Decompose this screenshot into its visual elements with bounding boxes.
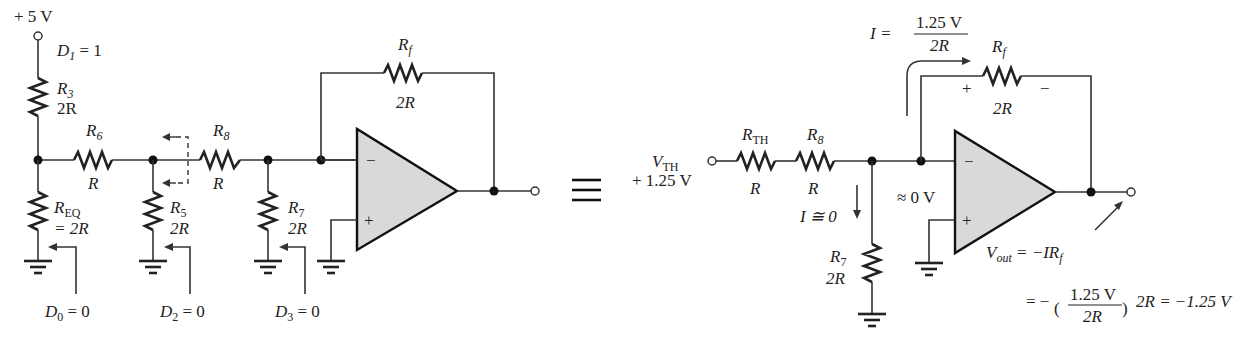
resistor-r7-right bbox=[864, 244, 880, 282]
svg-text:Rf: Rf bbox=[397, 35, 413, 57]
resistor-r8 bbox=[200, 152, 240, 168]
vth-terminal bbox=[708, 157, 716, 165]
d1-label: D1 = 1 bbox=[56, 41, 102, 63]
svg-text:R7: R7 bbox=[287, 198, 304, 220]
svg-text:2R: 2R bbox=[396, 93, 416, 112]
svg-text:R3: R3 bbox=[56, 79, 73, 101]
svg-text:(: ( bbox=[1054, 299, 1060, 318]
resistor-r3 bbox=[30, 78, 46, 116]
supply-label: + 5 V bbox=[14, 7, 53, 26]
resistor-r7 bbox=[260, 192, 276, 230]
resistor-r8-right bbox=[796, 153, 834, 169]
svg-text:1.25 V: 1.25 V bbox=[1070, 285, 1117, 304]
svg-text:−: − bbox=[964, 152, 974, 171]
resistor-rth bbox=[737, 153, 775, 169]
svg-text:Rf: Rf bbox=[991, 37, 1007, 59]
svg-text:R7: R7 bbox=[829, 247, 846, 269]
svg-text:2R: 2R bbox=[170, 219, 190, 238]
zero-current-label: I ≅ 0 bbox=[799, 207, 837, 226]
svg-text:R: R bbox=[749, 179, 761, 198]
left-circuit: + 5 V D1 = 1 R3 2R R6 R R8 R bbox=[14, 7, 539, 324]
vout-equation-1: Vout = −IRf bbox=[986, 243, 1064, 265]
svg-text:2R: 2R bbox=[57, 99, 78, 118]
svg-text:R: R bbox=[212, 174, 224, 193]
svg-text:R8: R8 bbox=[212, 121, 229, 143]
svg-text:REQ: REQ bbox=[53, 198, 81, 220]
svg-text:R: R bbox=[87, 174, 99, 193]
equivalence-symbol bbox=[572, 180, 601, 200]
svg-text:= −: = − bbox=[1026, 292, 1049, 311]
svg-text:R5: R5 bbox=[169, 198, 186, 220]
svg-text:2R: 2R bbox=[930, 36, 950, 55]
virtual-ground-label: ≈ 0 V bbox=[897, 188, 936, 207]
d0-label: D0 = 0 bbox=[44, 302, 90, 324]
svg-text:2R: 2R bbox=[826, 269, 846, 288]
supply-terminal bbox=[34, 32, 42, 40]
output-terminal-left bbox=[531, 187, 539, 195]
svg-text:2R: 2R bbox=[993, 99, 1013, 118]
output-terminal-right bbox=[1127, 188, 1135, 196]
svg-text:R: R bbox=[807, 179, 819, 198]
svg-text:1.25 V: 1.25 V bbox=[916, 13, 963, 32]
vout-equation-2: = − ( 1.25 V 2R ) 2R = −1.25 V bbox=[1026, 285, 1233, 326]
op-amp-right bbox=[955, 131, 1055, 253]
svg-text:= 2R: = 2R bbox=[54, 219, 89, 238]
dac-thevenin-diagram: + 5 V D1 = 1 R3 2R R6 R R8 R bbox=[0, 0, 1259, 338]
svg-text:+: + bbox=[962, 79, 972, 98]
svg-text:): ) bbox=[1122, 299, 1128, 318]
d2-label: D2 = 0 bbox=[159, 302, 205, 324]
resistor-r5 bbox=[145, 192, 161, 230]
resistor-r6 bbox=[74, 152, 112, 168]
d3-label: D3 = 0 bbox=[274, 302, 320, 324]
resistor-rf bbox=[384, 65, 422, 81]
svg-text:−: − bbox=[1040, 79, 1050, 98]
resistor-rf-right bbox=[983, 68, 1021, 84]
svg-text:R6: R6 bbox=[85, 121, 102, 143]
op-amp-left bbox=[357, 129, 457, 250]
svg-text:2R = −1.25 V: 2R = −1.25 V bbox=[1136, 292, 1233, 311]
svg-text:2R: 2R bbox=[288, 219, 308, 238]
svg-text:2R: 2R bbox=[1083, 307, 1103, 326]
svg-text:+: + bbox=[364, 211, 374, 230]
svg-text:−: − bbox=[366, 151, 376, 170]
svg-text:+ 1.25 V: + 1.25 V bbox=[632, 171, 693, 190]
svg-text:R8: R8 bbox=[806, 125, 823, 147]
right-circuit: VTH + 1.25 V RTH R R8 R R7 2R I ≅ 0 ≈ 0 … bbox=[632, 13, 1233, 326]
current-equation: I = bbox=[869, 24, 891, 43]
svg-text:RTH: RTH bbox=[741, 125, 769, 147]
svg-text:+: + bbox=[962, 211, 972, 230]
resistor-req bbox=[30, 192, 46, 230]
